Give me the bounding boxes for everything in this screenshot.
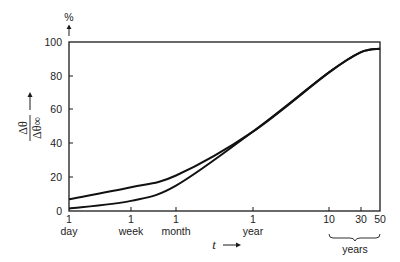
y-tick-0: 0 — [56, 205, 62, 217]
x-tick-label: 1 — [173, 213, 179, 225]
y-tick-60: 60 — [50, 103, 62, 115]
plot-frame — [69, 42, 380, 211]
y-label-denominator: Δθ∞ — [30, 117, 44, 139]
x-tick-label: 10 — [323, 213, 335, 225]
y-unit-arrow-icon — [67, 25, 72, 37]
y-tick-20: 20 — [50, 171, 62, 183]
x-tick-label: 1 — [128, 213, 134, 225]
y-tick-100: 100 — [44, 36, 62, 48]
x-tick-sublabel: week — [118, 225, 144, 237]
x-tick-sublabel: day — [61, 225, 79, 237]
upper-curve — [69, 49, 380, 199]
y-tick-40: 40 — [50, 137, 62, 149]
x-tick-label: 1 — [250, 213, 256, 225]
x-tick-label: 1 — [66, 213, 72, 225]
years-group-label: years — [342, 243, 368, 255]
lower-curve — [69, 49, 380, 209]
y-tick-80: 80 — [50, 70, 62, 82]
x-tick-label: 50 — [374, 213, 386, 225]
chart: 0 20 40 60 80 100 % Δθ Δθ∞ 1day1week1mon… — [0, 0, 400, 262]
y-axis-label: Δθ Δθ∞ — [16, 115, 44, 141]
x-tick-sublabel: month — [161, 225, 190, 237]
x-axis-label: t — [212, 237, 216, 252]
y-label-numerator: Δθ — [16, 121, 30, 135]
y-axis-arrow-icon — [28, 92, 33, 110]
x-tick-sublabel: year — [243, 225, 264, 237]
x-axis-arrow-icon — [223, 243, 241, 248]
x-tick-labels: 1day1week1month1year103050 — [61, 213, 386, 237]
y-tick-labels: 0 20 40 60 80 100 — [44, 36, 62, 217]
years-brace — [329, 234, 380, 241]
x-tick-label: 30 — [355, 213, 367, 225]
y-unit-label: % — [64, 11, 73, 23]
